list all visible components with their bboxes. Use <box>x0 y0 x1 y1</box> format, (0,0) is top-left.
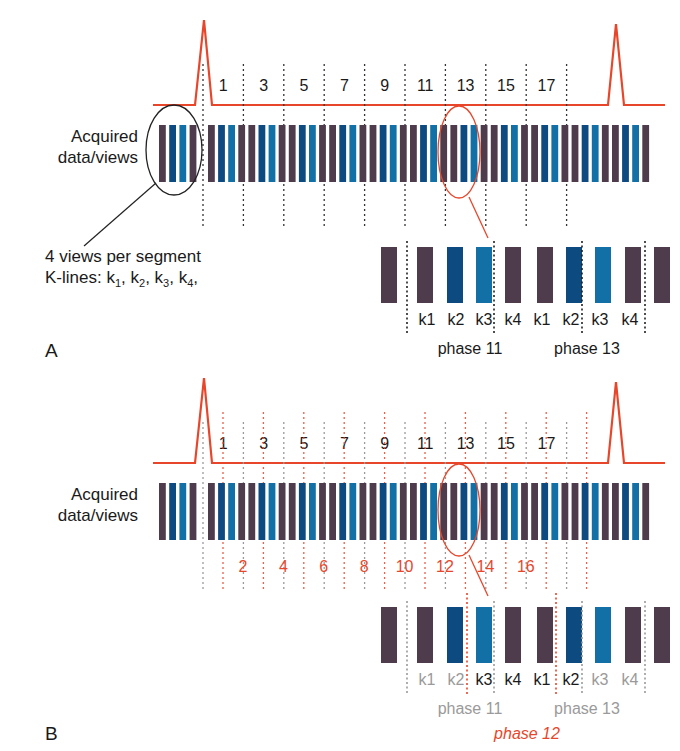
detail-phase-left-label: phase 11 <box>438 340 503 357</box>
detail-phase-right-label: phase 13 <box>554 340 620 357</box>
acquired-view-bar <box>159 125 166 182</box>
detail-kline-label: k4 <box>505 671 522 688</box>
acquired-view-bar <box>279 125 286 182</box>
detail-kline-label: k2 <box>448 311 465 328</box>
detail-view-bar <box>566 607 582 663</box>
detail-view-bar <box>625 607 641 663</box>
acquired-view-bar <box>248 483 255 540</box>
detail-view-bar <box>476 247 492 303</box>
acquired-view-bar <box>190 125 197 182</box>
acquired-view-bar <box>501 483 508 540</box>
acquired-view-bar <box>642 483 649 540</box>
acquired-view-bar <box>400 125 407 182</box>
acquired-view-bar <box>319 483 326 540</box>
detail-kline-label: k4 <box>622 671 639 688</box>
acquired-view-bar <box>329 483 336 540</box>
acquired-view-bar <box>461 125 468 182</box>
acquired-view-bar <box>238 125 245 182</box>
annotation-leader-line <box>84 183 156 246</box>
detail-kline-label: k3 <box>476 671 493 688</box>
acquired-view-bar <box>259 125 266 182</box>
even-phase-number: 4 <box>279 558 288 575</box>
acquired-view-bar <box>289 125 296 182</box>
even-phase-number: 2 <box>239 558 248 575</box>
acquired-view-bar <box>309 483 316 540</box>
detail-view-bar <box>381 607 397 663</box>
acquired-view-bar <box>501 125 508 182</box>
acquired-view-bar <box>299 125 306 182</box>
detail-kline-label: k4 <box>622 311 639 328</box>
detail-kline-label: k2 <box>563 311 580 328</box>
panel-a-acquired-label-1: Acquired <box>71 127 138 146</box>
acquired-view-bar <box>259 483 266 540</box>
acquired-view-bar <box>218 483 225 540</box>
acquired-view-bar <box>582 483 589 540</box>
detail-view-bar <box>447 247 463 303</box>
detail-view-bar <box>595 607 611 663</box>
panel-b-label: B <box>45 723 58 744</box>
acquired-view-bar <box>632 125 639 182</box>
phase-number: 15 <box>497 77 515 94</box>
acquired-view-bar <box>430 125 437 182</box>
phase-number: 9 <box>380 77 389 94</box>
detail-kline-label: k1 <box>419 671 436 688</box>
panel-a-label: A <box>45 340 58 361</box>
cardiac-gating-diagram: 1357911131517k1k2k3k4k1k2k3k4phase 11pha… <box>0 0 680 751</box>
acquired-view-bar <box>521 125 528 182</box>
acquired-view-bar <box>602 125 609 182</box>
acquired-view-bar <box>471 125 478 182</box>
detail-connector-line <box>469 197 488 238</box>
acquired-view-bar <box>531 125 538 182</box>
acquired-view-bar <box>481 483 488 540</box>
detail-view-bar <box>595 247 611 303</box>
detail-view-bar <box>447 607 463 663</box>
detail-phase-left-label: phase 11 <box>438 700 503 717</box>
acquired-view-bar <box>370 483 377 540</box>
panel-a-views-annotation: 4 views per segment <box>45 247 201 266</box>
phase-number: 13 <box>457 77 475 94</box>
panel-a: 1357911131517k1k2k3k4k1k2k3k4phase 11pha… <box>84 20 670 357</box>
acquired-view-bar <box>329 125 336 182</box>
even-phase-number: 8 <box>360 558 369 575</box>
acquired-view-bar <box>248 125 255 182</box>
acquired-view-bar <box>289 483 296 540</box>
even-phase-number: 6 <box>319 558 328 575</box>
acquired-view-bar <box>541 483 548 540</box>
detail-view-bar <box>505 247 521 303</box>
detail-kline-label: k4 <box>505 311 522 328</box>
acquired-view-bar <box>360 125 367 182</box>
acquired-view-bar <box>612 125 619 182</box>
detail-phase-right-label: phase 13 <box>554 700 620 717</box>
acquired-view-bar <box>440 483 447 540</box>
acquired-view-bar <box>582 125 589 182</box>
detail-kline-label: k3 <box>476 311 493 328</box>
acquired-view-bar <box>218 125 225 182</box>
acquired-view-bar <box>269 483 276 540</box>
detail-view-bar <box>537 247 553 303</box>
acquired-view-bar <box>339 483 346 540</box>
acquired-view-bar <box>450 125 457 182</box>
acquired-view-bar <box>622 125 629 182</box>
acquired-view-bar <box>541 125 548 182</box>
detail-kline-label: k1 <box>419 311 436 328</box>
acquired-view-bar <box>562 483 569 540</box>
acquired-view-bar <box>551 483 558 540</box>
acquired-view-bar <box>169 125 176 182</box>
detail-phase-center-label: phase 12 <box>493 725 560 742</box>
acquired-view-bar <box>179 125 186 182</box>
panel-b-acquired-label-2: data/views <box>58 506 138 525</box>
phase-number: 3 <box>259 77 268 94</box>
acquired-view-bar <box>390 125 397 182</box>
acquired-view-bar <box>521 483 528 540</box>
acquired-view-bar <box>228 483 235 540</box>
acquired-view-bar <box>339 125 346 182</box>
even-phase-number: 10 <box>396 558 414 575</box>
detail-kline-label: k2 <box>448 671 465 688</box>
acquired-view-bar <box>632 483 639 540</box>
detail-view-bar <box>381 247 397 303</box>
acquired-view-bar <box>190 483 197 540</box>
detail-view-bar <box>625 247 641 303</box>
acquired-view-bar <box>592 483 599 540</box>
acquired-view-bar <box>511 125 518 182</box>
detail-view-bar <box>417 247 433 303</box>
